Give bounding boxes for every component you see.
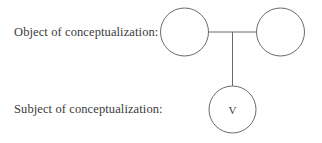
object-left-circle [161, 8, 209, 56]
conceptualization-diagram: V [0, 0, 322, 143]
subject-node-label: V [229, 104, 237, 116]
object-right-circle [257, 8, 305, 56]
